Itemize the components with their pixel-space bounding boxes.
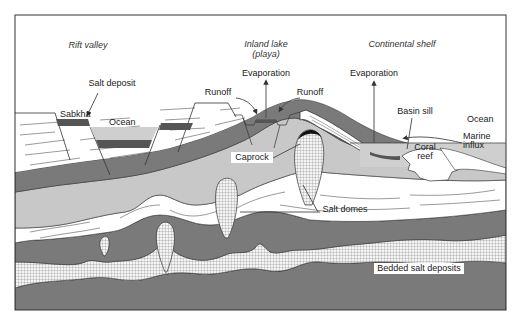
salt-formation-diagram: Rift valley Inland lake (playa) Continen… (0, 0, 516, 323)
label-evaporation-shelf: Evaporation (350, 68, 398, 78)
rift-ocean-water (90, 127, 158, 140)
cross-section-svg: Rift valley Inland lake (playa) Continen… (0, 0, 516, 323)
label-reef: reef (417, 151, 433, 161)
label-salt-domes: Salt domes (322, 204, 368, 214)
label-ocean-right: Ocean (467, 114, 494, 124)
label-runoff-right: Runoff (297, 87, 324, 97)
label-evaporation-lake: Evaporation (242, 68, 290, 78)
label-continental-shelf: Continental shelf (368, 39, 437, 49)
label-ocean-left: Ocean (109, 117, 136, 127)
label-bedded-salt-deposits: Bedded salt deposits (377, 263, 461, 273)
label-influx: influx (463, 140, 485, 150)
rift-salt-band (96, 140, 152, 148)
label-caprock: Caprock (235, 152, 269, 162)
label-inland-lake: Inland lake (244, 39, 288, 49)
label-playa: (playa) (252, 49, 280, 59)
label-salt-deposit: Salt deposit (88, 78, 136, 88)
label-rift-valley: Rift valley (68, 40, 108, 50)
label-sabkha: Sabkha (60, 109, 91, 119)
sabkha-band (56, 119, 90, 126)
label-runoff-left: Runoff (205, 87, 232, 97)
label-basin-sill: Basin sill (397, 106, 433, 116)
rift-block-band (159, 123, 193, 130)
